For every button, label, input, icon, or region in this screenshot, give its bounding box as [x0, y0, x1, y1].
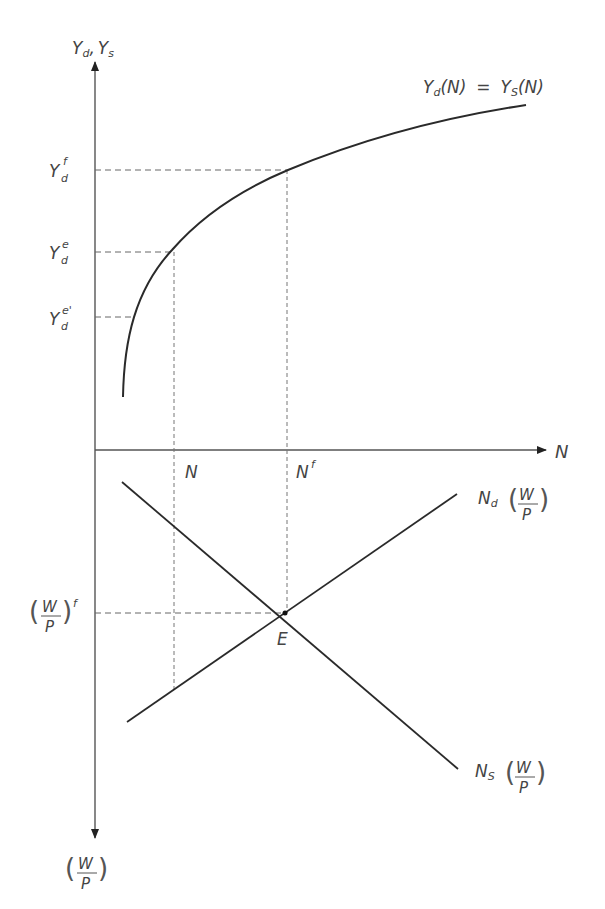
output-curve-label: Yd(N)=YS(N): [423, 77, 544, 99]
equilibrium-point: [283, 611, 288, 616]
demand-line-label: Nd ( W P ): [478, 484, 549, 524]
y-tick-label-full: Y d f: [49, 155, 69, 185]
svg-text:Y: Y: [49, 161, 61, 181]
vertical-guide-lines: [174, 170, 287, 690]
svg-text:Y: Y: [49, 309, 61, 329]
diagram-canvas: Yd,Ys Y d f Y d e Y d e' N N f N Yd(N)=Y…: [0, 0, 605, 909]
x-tick-label-nf: N f: [296, 458, 317, 482]
svg-text:(: (: [505, 757, 515, 787]
supply-line-label: NS ( W P ): [475, 757, 546, 797]
x-tick-label-n: N: [185, 462, 198, 482]
svg-text:d: d: [61, 254, 69, 267]
svg-text:): ): [539, 484, 549, 514]
svg-text:Yd(N)=YS(N): Yd(N)=YS(N): [423, 77, 544, 99]
svg-text:(: (: [508, 484, 518, 514]
svg-text:): ): [98, 853, 108, 883]
svg-text:(: (: [29, 596, 39, 626]
svg-text:P: P: [81, 875, 91, 893]
svg-text:f: f: [73, 597, 79, 610]
wage-tick-label: ( W P ) f: [29, 596, 79, 636]
svg-text:d: d: [61, 320, 69, 333]
svg-text:f: f: [311, 458, 317, 471]
supply-line: [122, 482, 458, 769]
guide-lines: [95, 170, 288, 317]
svg-text:e: e: [62, 238, 69, 251]
output-curve: [123, 105, 526, 397]
svg-text:W: W: [519, 486, 535, 504]
svg-text:e': e': [62, 304, 72, 317]
svg-text:Y: Y: [49, 243, 61, 263]
svg-text:W: W: [516, 759, 532, 777]
svg-text:): ): [62, 596, 72, 626]
equilibrium-label: E: [277, 629, 288, 649]
svg-text:P: P: [522, 506, 532, 524]
svg-text:W: W: [78, 855, 94, 873]
y-tick-label-e: Y d e: [49, 238, 69, 267]
svg-text:W: W: [42, 598, 58, 616]
horizontal-axis-label: N: [555, 441, 568, 462]
svg-text:Yd,Ys: Yd,Ys: [72, 38, 114, 60]
svg-text:f: f: [63, 155, 69, 168]
svg-text:Nd: Nd: [478, 488, 499, 510]
svg-text:): ): [536, 757, 546, 787]
svg-text:P: P: [45, 618, 55, 636]
svg-text:(: (: [65, 853, 75, 883]
y-tick-label-e-prime: Y d e': [49, 304, 72, 333]
vertical-axis-bottom-label: ( W P ): [65, 853, 108, 893]
vertical-axis-top-label: Yd,Ys: [72, 38, 114, 60]
svg-text:d: d: [61, 172, 69, 185]
svg-text:N: N: [296, 462, 309, 482]
svg-text:NS: NS: [475, 761, 495, 783]
svg-text:P: P: [519, 779, 529, 797]
